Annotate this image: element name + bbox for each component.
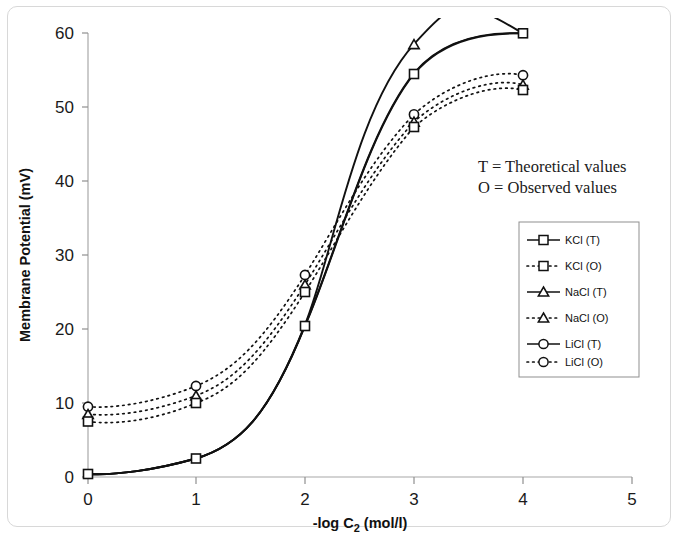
marker-kcl-o-x4 [519, 86, 528, 95]
y-tick-label-30: 30 [55, 246, 74, 265]
legend-marker-circle-licl-t [539, 339, 548, 348]
series-licl-observed-line [88, 74, 523, 407]
marker-licl-o-x4 [518, 71, 527, 80]
x-axis-ticks [88, 477, 632, 484]
marker-kcl-o-x1 [192, 399, 201, 408]
x-axis-title: -log C2 (mol/l) [313, 515, 408, 534]
y-tick-label-20: 20 [55, 320, 74, 339]
y-tick-label-40: 40 [55, 172, 74, 191]
y-tick-label-50: 50 [55, 98, 74, 117]
marker-kcl-o-x0 [84, 417, 93, 426]
legend-label-kcl-o: KCl (O) [565, 260, 602, 272]
legend-marker-square-kcl-o [539, 262, 548, 271]
y-axis-title: Membrane Potential (mV) [17, 168, 33, 342]
annotation-observed: O = Observed values [478, 178, 617, 197]
membrane-potential-chart: 0 10 20 30 40 50 60 0 1 2 3 4 5 Membrane… [0, 0, 678, 534]
marker-licl-o-x2 [300, 270, 309, 279]
marker-licl-o-x1 [191, 381, 200, 390]
x-tick-label-3: 3 [409, 490, 418, 509]
annotation-theoretical: T = Theoretical values [478, 157, 626, 176]
marker-kcl-t-x1 [192, 454, 201, 463]
y-tick-label-10: 10 [55, 394, 74, 413]
marker-kcl-t-x4 [519, 29, 528, 38]
x-tick-label-1: 1 [191, 490, 200, 509]
legend-label-licl-t: LiCl (T) [565, 338, 601, 350]
x-tick-label-5: 5 [627, 490, 636, 509]
x-axis-title-base: -log C [313, 515, 355, 531]
legend-marker-square-kcl-t [539, 236, 548, 245]
y-tick-label-60: 60 [55, 24, 74, 43]
legend-label-kcl-t: KCl (T) [565, 234, 600, 246]
legend-label-nacl-t: NaCl (T) [565, 286, 607, 298]
y-tick-label-0: 0 [65, 468, 74, 487]
x-tick-label-2: 2 [300, 490, 309, 509]
legend: KCl (T) KCl (O) NaCl (T) NaCl (O) LiCl (… [519, 222, 639, 377]
series-nacl-observed-line [88, 83, 523, 415]
marker-kcl-t-x2 [301, 322, 310, 331]
marker-kcl-o-x2 [301, 288, 310, 297]
x-tick-label-4: 4 [518, 490, 527, 509]
legend-label-licl-o: LiCl (O) [565, 356, 603, 368]
marker-kcl-o-x3 [410, 123, 419, 132]
legend-label-nacl-o: NaCl (O) [565, 312, 608, 324]
x-tick-label-0: 0 [83, 490, 92, 509]
series-kcl-observed-line [88, 88, 523, 422]
marker-kcl-t-x3 [410, 70, 419, 79]
series-nacl-theoretical-line [88, 8, 523, 474]
data-markers [83, 29, 528, 479]
legend-marker-circle-licl-o [539, 357, 548, 366]
marker-kcl-t-x0 [84, 470, 93, 479]
x-axis-title-tail: (mol/l) [360, 515, 408, 531]
plot-series-group [83, 8, 528, 479]
